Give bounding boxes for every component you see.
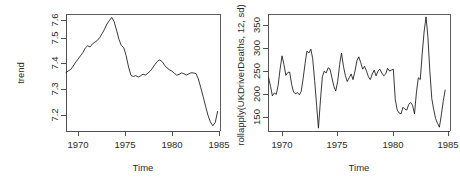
panel-left-xtick-2: 1980	[161, 139, 182, 150]
panel-left-ytick-4: 7.6	[49, 13, 60, 26]
panel-right-ytick-3: 300	[251, 40, 262, 56]
trend-series-line	[66, 17, 218, 125]
panel-right-ytick-4: 350	[251, 17, 262, 33]
panel-left-xlabel: Time	[133, 162, 154, 173]
panel-left-ytick-3: 7.5	[49, 31, 60, 44]
panel-right-svg: rollapply(UKDriverDeaths, 12, sd) 150 20…	[230, 0, 460, 183]
panel-right-xtick-0: 1970	[271, 139, 292, 150]
panel-right-xaxis	[268, 131, 450, 136]
rollsd-series-line	[269, 17, 446, 128]
panel-right-xtick-1: 1975	[326, 139, 347, 150]
panel-left-xaxis	[66, 131, 220, 136]
panel-right-ytick-2: 250	[251, 63, 262, 79]
panel-left-ytick-0: 7.2	[49, 108, 60, 121]
panel-right-xtick-3: 1985	[437, 139, 458, 150]
panel-right-yaxis	[263, 14, 268, 131]
panel-left-yaxis	[61, 14, 66, 131]
panel-left-xtick-1: 1975	[114, 139, 135, 150]
panel-trend-svg: trend 7.2 7.3 7.4 7.5 7.6	[0, 0, 230, 183]
panel-right-xtick-2: 1980	[382, 139, 403, 150]
panel-right-ytick-0: 150	[251, 109, 262, 125]
figure-root: trend 7.2 7.3 7.4 7.5 7.6	[0, 0, 460, 183]
panel-right-box	[268, 14, 450, 131]
panel-rollapply-sd: rollapply(UKDriverDeaths, 12, sd) 150 20…	[230, 0, 460, 183]
panel-left-ylabel: trend	[15, 62, 26, 84]
panel-trend: trend 7.2 7.3 7.4 7.5 7.6	[0, 0, 230, 183]
panel-left-box	[66, 14, 220, 131]
panel-left-ytick-1: 7.3	[49, 82, 60, 95]
panel-right-ytick-1: 200	[251, 86, 262, 102]
panel-left-xtick-0: 1970	[67, 139, 88, 150]
panel-right-ylabel: rollapply(UKDriverDeaths, 12, sd)	[235, 4, 246, 146]
panel-left-xtick-3: 1985	[208, 139, 229, 150]
panel-left-ytick-2: 7.4	[49, 56, 60, 69]
panel-right-xlabel: Time	[349, 162, 370, 173]
